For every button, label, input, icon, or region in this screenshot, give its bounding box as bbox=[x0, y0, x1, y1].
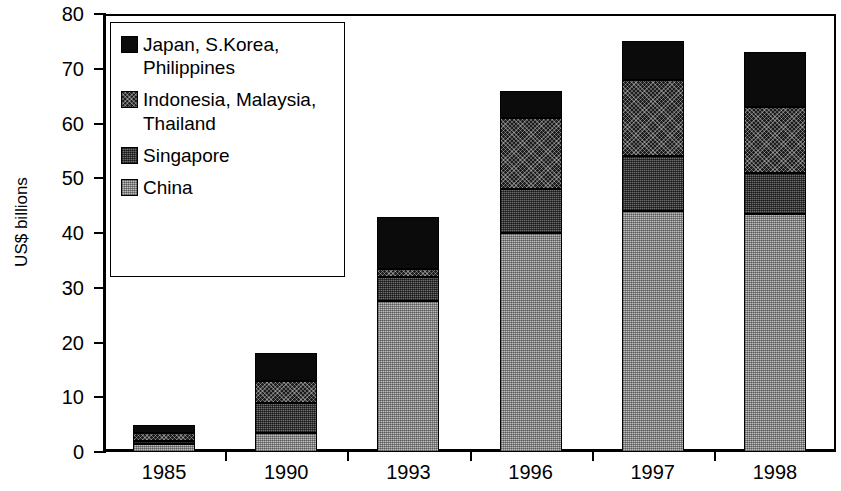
legend-item: Indonesia, Malaysia, Thailand bbox=[121, 88, 336, 134]
x-axis-tick-label: 1996 bbox=[471, 461, 591, 483]
bar-1997 bbox=[622, 14, 684, 452]
bar-segment bbox=[255, 433, 317, 452]
x-axis-tick-label: 1993 bbox=[348, 461, 468, 483]
y-axis-tick bbox=[94, 123, 106, 125]
y-axis-tick bbox=[94, 287, 106, 289]
y-axis-tick bbox=[94, 177, 106, 179]
bar-segment bbox=[133, 444, 195, 452]
bar-segment bbox=[255, 381, 317, 403]
bar-segment bbox=[133, 433, 195, 441]
legend-label: Singapore bbox=[143, 144, 230, 167]
bar-segment bbox=[255, 403, 317, 433]
legend-swatch-icon bbox=[121, 91, 138, 108]
bar-1996 bbox=[500, 14, 562, 452]
bar-segment bbox=[377, 301, 439, 452]
bar-segment bbox=[133, 425, 195, 433]
y-axis-tick bbox=[94, 13, 106, 15]
x-axis-tick bbox=[347, 452, 349, 461]
y-axis-tick bbox=[94, 68, 106, 70]
y-axis-tick-label: 10 bbox=[28, 387, 84, 407]
bar-segment bbox=[500, 189, 562, 233]
x-axis-tick bbox=[225, 452, 227, 461]
y-axis-tick bbox=[94, 342, 106, 344]
legend-label: Japan, S.Korea, Philippines bbox=[143, 33, 279, 79]
y-axis-tick bbox=[94, 396, 106, 398]
bar-segment bbox=[622, 211, 684, 452]
x-axis-tick-label: 1997 bbox=[593, 461, 713, 483]
stacked-bar-chart: US$ billions 01020304050607080 198519901… bbox=[0, 0, 841, 491]
bar-segment bbox=[377, 217, 439, 269]
y-axis-tick-label: 60 bbox=[28, 114, 84, 134]
bar-segment bbox=[622, 80, 684, 157]
bar-segment bbox=[622, 156, 684, 211]
x-axis-tick-label: 1998 bbox=[715, 461, 835, 483]
legend-label: Indonesia, Malaysia, Thailand bbox=[143, 88, 316, 134]
bar-1998 bbox=[744, 14, 806, 452]
bar-segment bbox=[744, 107, 806, 173]
y-axis-tick-label: 40 bbox=[28, 223, 84, 243]
x-axis-tick bbox=[592, 452, 594, 461]
y-axis-tick-label: 30 bbox=[28, 278, 84, 298]
bar-segment bbox=[255, 353, 317, 380]
legend-label: China bbox=[143, 176, 193, 199]
x-axis-tick-label: 1990 bbox=[226, 461, 346, 483]
bar-segment bbox=[377, 269, 439, 277]
legend: Japan, S.Korea, PhilippinesIndonesia, Ma… bbox=[110, 22, 345, 277]
bar-segment bbox=[500, 233, 562, 452]
y-axis-tick bbox=[94, 451, 106, 453]
x-axis-tick bbox=[714, 452, 716, 461]
legend-swatch-icon bbox=[121, 147, 138, 164]
y-axis-tick-label: 0 bbox=[28, 442, 84, 462]
y-axis-tick-label: 80 bbox=[28, 4, 84, 24]
bar-segment bbox=[500, 91, 562, 118]
legend-item: Japan, S.Korea, Philippines bbox=[121, 33, 336, 79]
y-axis-tick bbox=[94, 232, 106, 234]
y-axis-tick-label: 50 bbox=[28, 168, 84, 188]
legend-item: China bbox=[121, 176, 336, 199]
bar-segment bbox=[622, 41, 684, 79]
legend-swatch-icon bbox=[121, 36, 138, 53]
bar-segment bbox=[500, 118, 562, 189]
x-axis-tick bbox=[470, 452, 472, 461]
bar-segment bbox=[744, 173, 806, 214]
legend-swatch-icon bbox=[121, 179, 138, 196]
y-axis-tick-label: 70 bbox=[28, 59, 84, 79]
y-axis-tick-label: 20 bbox=[28, 333, 84, 353]
legend-item: Singapore bbox=[121, 144, 336, 167]
x-axis-tick-label: 1985 bbox=[104, 461, 224, 483]
bar-segment bbox=[744, 52, 806, 107]
bar-segment bbox=[377, 277, 439, 302]
bar-segment bbox=[744, 214, 806, 452]
bar-segment bbox=[133, 441, 195, 444]
bar-1993 bbox=[377, 14, 439, 452]
